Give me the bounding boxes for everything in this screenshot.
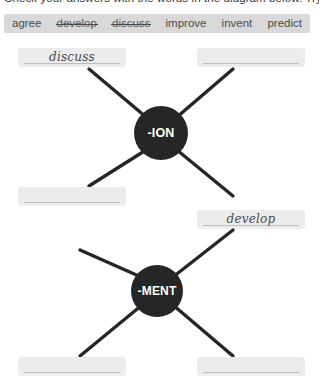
instruction-text: Check your answers with the words in the…	[4, 0, 319, 5]
connector-ment-bottom-left	[80, 305, 142, 356]
connector-ion-bottom-right	[177, 150, 233, 196]
answer-slot-ion-bottom-left[interactable]	[18, 187, 126, 205]
connector-ment-top-left	[80, 250, 141, 277]
connector-ion-bottom-left	[89, 150, 146, 186]
answer-slot-ment-top-right[interactable]: develop	[197, 210, 305, 228]
suffix-hub-label: -MENT	[138, 284, 177, 298]
answer-slot-ment-bottom-right[interactable]	[197, 357, 305, 375]
writing-rule	[203, 63, 299, 64]
connector-ion-top-right	[177, 69, 233, 117]
word-bank: agree develop discuss improve invent pre…	[4, 14, 310, 33]
suffix-hub-label: -ION	[147, 126, 174, 140]
suffix-hub-ment: -MENT	[131, 265, 183, 317]
worksheet-page: Check your answers with the words in the…	[0, 0, 323, 386]
handwritten-answer: develop	[197, 213, 305, 225]
answer-slot-ment-bottom-left[interactable]	[18, 357, 126, 375]
word-bank-item-discuss[interactable]: discuss	[112, 14, 150, 33]
answer-slot-ion-top-right[interactable]	[197, 48, 305, 66]
connector-ment-top-right	[173, 230, 233, 277]
writing-rule	[203, 372, 299, 373]
answer-slot-ion-top-left[interactable]: discuss	[18, 48, 126, 66]
writing-rule	[24, 202, 120, 203]
word-bank-item-predict[interactable]: predict	[267, 14, 302, 33]
word-bank-item-develop[interactable]: develop	[57, 14, 97, 33]
connector-ion-top-left	[89, 69, 146, 117]
writing-rule	[24, 372, 120, 373]
word-bank-item-agree[interactable]: agree	[12, 14, 41, 33]
word-bank-item-invent[interactable]: invent	[222, 14, 253, 33]
connector-ment-bottom-right	[173, 305, 233, 356]
suffix-hub-ion: -ION	[134, 106, 188, 160]
handwritten-answer: discuss	[18, 51, 126, 63]
word-bank-item-improve[interactable]: improve	[166, 14, 207, 33]
